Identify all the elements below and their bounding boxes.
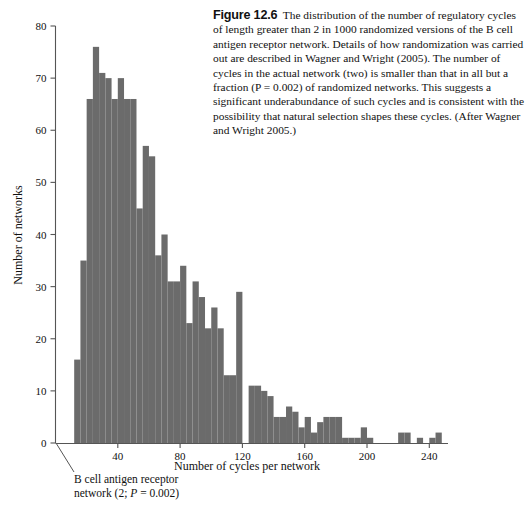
annotation-line-1: B cell antigen receptor: [74, 473, 179, 486]
histogram-bar: [193, 281, 199, 443]
histogram-bar: [236, 292, 242, 443]
histogram-plot: 01020304050607080 4080120160200240 Numbe…: [0, 0, 531, 506]
x-tick-label: 200: [359, 450, 376, 462]
histogram-bar: [74, 360, 80, 443]
histogram-bar: [361, 427, 367, 443]
histogram-bar: [255, 386, 261, 443]
histogram-bar: [168, 281, 174, 443]
y-tick-label: 70: [36, 72, 48, 84]
histogram-bar: [180, 266, 186, 443]
histogram-bar: [417, 438, 423, 443]
histogram-bar: [143, 146, 149, 443]
histogram-bar: [305, 417, 311, 443]
histogram-bar: [199, 297, 205, 443]
annotation-line-2: network (2; P = 0.002): [74, 487, 179, 500]
histogram-bar: [105, 78, 111, 443]
y-axis-title: Number of networks: [11, 185, 25, 285]
histogram-figure: 01020304050607080 4080120160200240 Numbe…: [0, 0, 531, 506]
histogram-bar: [217, 328, 223, 443]
histogram-bar: [429, 438, 435, 443]
x-tick-label: 240: [421, 450, 438, 462]
histogram-bar: [87, 99, 93, 443]
histogram-bar: [205, 328, 211, 443]
histogram-bar: [298, 427, 304, 443]
y-tick-label: 10: [36, 385, 48, 397]
histogram-bar: [342, 438, 348, 443]
histogram-bar: [80, 261, 86, 443]
histogram-bar: [280, 417, 286, 443]
histogram-bars: [74, 47, 442, 443]
histogram-bar: [186, 323, 192, 443]
y-tick-label: 50: [36, 176, 48, 188]
y-tick-label: 40: [36, 229, 48, 241]
y-tick-label: 80: [36, 20, 48, 32]
histogram-bar: [149, 156, 155, 443]
histogram-bar: [398, 433, 404, 443]
histogram-bar: [261, 391, 267, 443]
histogram-bar: [136, 208, 142, 443]
histogram-bar: [155, 255, 161, 443]
histogram-bar: [230, 375, 236, 443]
histogram-bar: [330, 417, 336, 443]
histogram-bar: [367, 438, 373, 443]
x-tick-label: 40: [112, 450, 124, 462]
y-tick-label: 20: [36, 333, 48, 345]
x-axis-title: Number of cycles per network: [174, 459, 320, 473]
histogram-bar: [267, 396, 273, 443]
annotation-line-2-prefix: network (2;: [74, 487, 130, 500]
histogram-bar: [249, 386, 255, 443]
y-tick-label: 60: [36, 124, 48, 136]
histogram-bar: [112, 99, 118, 443]
histogram-bar: [336, 417, 342, 443]
histogram-bar: [311, 433, 317, 443]
histogram-bar: [174, 281, 180, 443]
histogram-bar: [348, 438, 354, 443]
histogram-bar: [130, 99, 136, 443]
annotation-line-2-suffix: = 0.002): [137, 487, 179, 500]
histogram-bar: [211, 307, 217, 443]
histogram-bar: [93, 47, 99, 443]
histogram-bar: [404, 433, 410, 443]
histogram-bar: [323, 417, 329, 443]
y-tick-label: 0: [41, 437, 47, 449]
y-tick-label: 30: [36, 281, 48, 293]
histogram-bar: [286, 407, 292, 443]
histogram-bar: [224, 375, 230, 443]
annotation-p-symbol: P: [129, 487, 137, 499]
histogram-bar: [292, 412, 298, 443]
histogram-bar: [436, 433, 442, 443]
histogram-bar: [124, 99, 130, 443]
histogram-bar: [355, 438, 361, 443]
histogram-bar: [274, 417, 280, 443]
histogram-bar: [161, 235, 167, 444]
y-axis-ticks: 01020304050607080: [36, 20, 56, 449]
histogram-bar: [118, 78, 124, 443]
annotation-leader-line: [56, 443, 74, 472]
histogram-bar: [99, 73, 105, 443]
histogram-bar: [317, 422, 323, 443]
